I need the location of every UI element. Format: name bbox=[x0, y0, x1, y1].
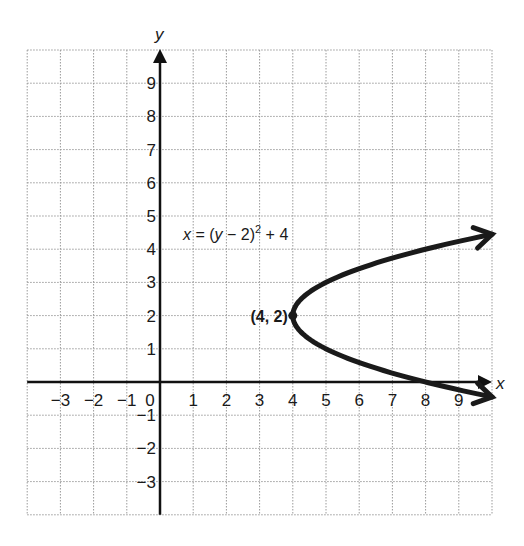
x-tick-label: 5 bbox=[321, 391, 330, 410]
x-tick-label: 4 bbox=[288, 391, 297, 410]
y-tick-label: 8 bbox=[147, 107, 156, 126]
tick-labels: −3−2−10123456789987654321−1−2−3 bbox=[51, 74, 464, 491]
grid-lines bbox=[27, 50, 492, 515]
y-tick-label: −2 bbox=[137, 439, 156, 458]
x-tick-label: −2 bbox=[84, 391, 103, 410]
x-tick-label: 7 bbox=[388, 391, 397, 410]
y-tick-label: 6 bbox=[147, 174, 156, 193]
x-tick-label: 6 bbox=[354, 391, 363, 410]
y-axis-label: y bbox=[154, 25, 165, 44]
y-tick-label: 5 bbox=[147, 207, 156, 226]
x-tick-label: −3 bbox=[51, 391, 70, 410]
equation-tail: + 4 bbox=[261, 226, 288, 243]
x-tick-label: −1 bbox=[117, 391, 136, 410]
annotations: x = (y − 2)2 + 4 (4, 2) x y bbox=[154, 25, 505, 393]
parabola-graph: −3−2−10123456789987654321−1−2−3 x = (y −… bbox=[0, 0, 524, 546]
y-tick-label: 2 bbox=[147, 307, 156, 326]
coordinate-plane: −3−2−10123456789987654321−1−2−3 x = (y −… bbox=[0, 0, 524, 546]
x-tick-label: 9 bbox=[454, 391, 463, 410]
vertex-label: (4, 2) bbox=[250, 308, 287, 325]
equation-rest: − 2) bbox=[223, 226, 255, 243]
x-axis-label: x bbox=[495, 374, 505, 393]
x-tick-label: 3 bbox=[255, 391, 264, 410]
equation-mid: = ( bbox=[191, 226, 215, 243]
y-tick-label: −3 bbox=[137, 473, 156, 492]
y-axis-arrow-icon bbox=[153, 49, 167, 63]
x-tick-label: 8 bbox=[421, 391, 430, 410]
y-tick-label: 7 bbox=[147, 141, 156, 160]
y-tick-label: 4 bbox=[147, 240, 156, 259]
x-tick-label: 2 bbox=[222, 391, 231, 410]
x-tick-label: 1 bbox=[188, 391, 197, 410]
y-tick-label: 1 bbox=[147, 340, 156, 359]
vertex-point bbox=[288, 311, 297, 320]
equation-label: x = (y − 2)2 + 4 bbox=[182, 223, 288, 243]
y-tick-label: 3 bbox=[147, 273, 156, 292]
y-tick-label: −1 bbox=[137, 406, 156, 425]
y-tick-label: 9 bbox=[147, 74, 156, 93]
